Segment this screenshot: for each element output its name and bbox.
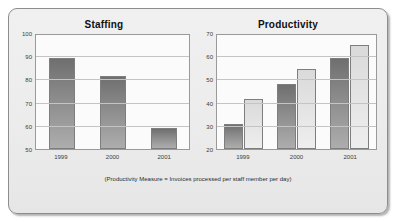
y-tick-label: 60 <box>25 124 32 130</box>
bar-group <box>49 35 75 149</box>
chart-body-staffing: 5060708090100 199920002001 <box>14 34 194 156</box>
gridline <box>36 56 189 57</box>
chart-title-productivity: Productivity <box>195 18 381 32</box>
chart-panels: Staffing 5060708090100 199920002001 Prod… <box>8 8 388 214</box>
y-tick-label: 70 <box>206 31 213 37</box>
y-tick-label: 50 <box>206 77 213 83</box>
x-axis-productivity: 199920002001 <box>216 151 377 163</box>
x-tick-label: 1999 <box>35 151 87 163</box>
plot-area-staffing <box>35 34 190 150</box>
y-tick-label: 90 <box>25 54 32 60</box>
x-tick-label: 2001 <box>138 151 190 163</box>
y-tick-label: 100 <box>22 31 32 37</box>
bar-group-container-staffing <box>36 35 189 149</box>
gridline <box>217 103 376 104</box>
x-tick-label: 2000 <box>270 151 324 163</box>
gridline <box>36 126 189 127</box>
plot-area-productivity <box>216 34 377 150</box>
gridline <box>36 103 189 104</box>
y-tick-label: 20 <box>206 147 213 153</box>
x-tick-label: 1999 <box>216 151 270 163</box>
bar <box>277 84 296 149</box>
chart-title-staffing: Staffing <box>14 18 194 32</box>
y-tick-label: 70 <box>25 101 32 107</box>
gridline <box>217 56 376 57</box>
x-tick-label: 2000 <box>87 151 139 163</box>
bar <box>297 69 316 149</box>
bar <box>350 45 369 149</box>
y-tick-label: 50 <box>25 147 32 153</box>
chart-body-productivity: 203040506070 199920002001 <box>195 34 381 156</box>
y-tick-label: 60 <box>206 54 213 60</box>
bar-group <box>100 35 126 149</box>
bar <box>100 76 126 149</box>
bar-group-container-productivity <box>217 35 376 149</box>
bar <box>224 124 243 149</box>
bar-group <box>277 35 316 149</box>
bar-group <box>330 35 369 149</box>
bar <box>244 99 263 149</box>
chart-panel-productivity: Productivity 203040506070 199920002001 <box>195 18 381 156</box>
chart-panel-staffing: Staffing 5060708090100 199920002001 <box>14 18 194 156</box>
y-tick-label: 80 <box>25 77 32 83</box>
x-axis-staffing: 199920002001 <box>35 151 190 163</box>
gridline <box>217 79 376 80</box>
y-axis-productivity: 203040506070 <box>195 34 215 150</box>
y-tick-label: 40 <box>206 101 213 107</box>
x-tick-label: 2001 <box>323 151 377 163</box>
chart-figure: Staffing 5060708090100 199920002001 Prod… <box>0 0 396 222</box>
bar-group <box>224 35 263 149</box>
bar <box>151 128 177 149</box>
y-axis-staffing: 5060708090100 <box>14 34 34 150</box>
figure-caption: (Productivity Measure = Invoices process… <box>8 176 388 182</box>
gridline <box>36 79 189 80</box>
bar-group <box>151 35 177 149</box>
gridline <box>217 126 376 127</box>
y-tick-label: 30 <box>206 124 213 130</box>
